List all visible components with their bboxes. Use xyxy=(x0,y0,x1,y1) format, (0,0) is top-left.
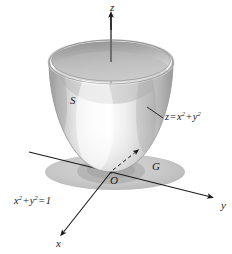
surface-label-s: S xyxy=(70,95,76,106)
z-axis-label: z xyxy=(110,2,114,13)
circle-eq-rhs: 1 xyxy=(46,195,51,206)
surface-eq-equals: = xyxy=(169,111,177,122)
surface-eq-term2-exponent: 2 xyxy=(198,110,201,117)
surface-eq-plus: + xyxy=(185,111,193,122)
region-label-g: G xyxy=(152,161,160,172)
circle-equation-label: x2+y2=1 xyxy=(14,196,51,207)
surface-equation-label: z=x2+y2 xyxy=(165,112,201,123)
paraboloid-figure: z y x O S G z=x2+y2 x2+y2=1 xyxy=(0,0,232,254)
circle-eq-plus: + xyxy=(22,195,30,206)
y-axis-label: y xyxy=(221,200,226,211)
x-axis-label: x xyxy=(56,238,61,249)
circle-eq-equals: = xyxy=(38,195,46,206)
figure-canvas xyxy=(0,0,232,254)
origin-label: O xyxy=(110,175,118,186)
